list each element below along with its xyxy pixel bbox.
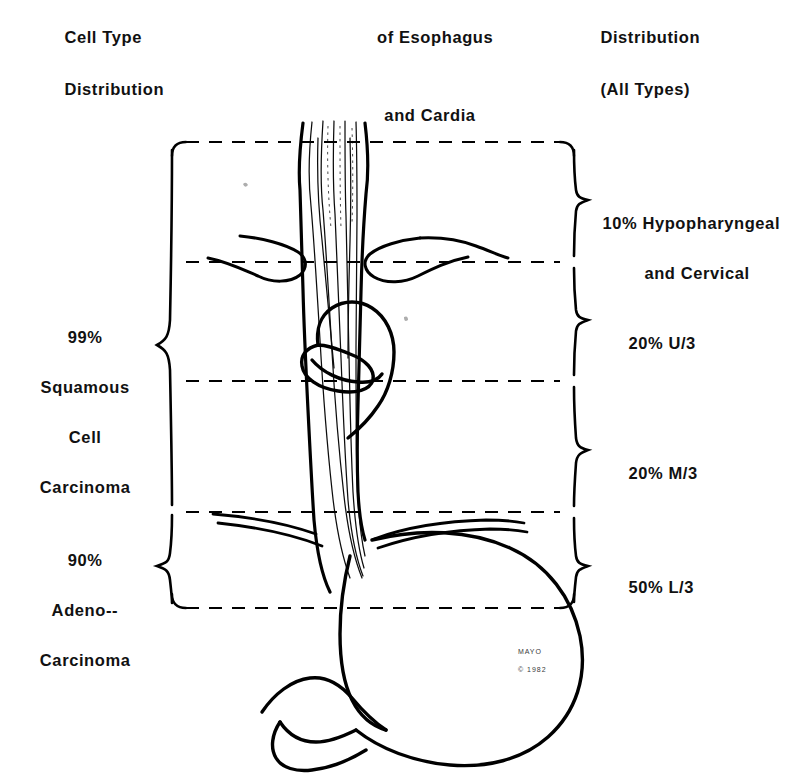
label-lower-third: 50% L/3 (618, 550, 694, 600)
adeno-percent: 90% (68, 551, 103, 569)
header-distribution-all-types: Distribution (All Types) (590, 0, 700, 102)
squamous-name-line3: Carcinoma (40, 478, 131, 496)
right-brace-upper-third (574, 268, 588, 375)
title-line2: and Cardia (330, 102, 530, 128)
diaphragm (213, 514, 527, 548)
stomach-pylorus-lower (280, 722, 356, 742)
right-brace-lower-third (574, 518, 588, 602)
credit-line2: © 1982 (518, 666, 547, 673)
header-left-line2: Distribution (64, 80, 164, 98)
header-right-line1: Distribution (600, 28, 700, 46)
right-braces (574, 150, 588, 602)
squamous-name-line2: Cell (69, 428, 102, 446)
label-upper-third: 20% U/3 (618, 306, 696, 356)
left-brace-adeno (157, 515, 172, 603)
label-hypopharyngeal-cervical: 10% Hypopharyngeal and Cervical (592, 186, 780, 286)
hypopharyngeal-line1: 10% Hypopharyngeal (602, 214, 780, 232)
squamous-name-line1: Squamous (41, 378, 130, 396)
header-right-line2: (All Types) (600, 80, 690, 98)
esophagus-wall-right (357, 123, 368, 540)
adeno-name-line1: Adeno-- (52, 601, 119, 619)
diaphragm-left-lower (218, 523, 322, 546)
label-middle-third: 20% M/3 (618, 436, 698, 486)
left-lateral-structure (208, 236, 305, 281)
middle-third-text: 20% M/3 (628, 464, 697, 482)
stomach-lesser-curvature (340, 556, 386, 730)
label-squamous-cell-carcinoma: 99% Squamous Cell Carcinoma (10, 300, 150, 500)
adeno-name-line2: Carcinoma (40, 651, 131, 669)
hypopharyngeal-line2: and Cervical (602, 261, 749, 286)
right-brace-middle-third (574, 387, 588, 506)
mayo-credit: MAYO © 1982 (512, 638, 547, 674)
credit-line1: MAYO (518, 648, 542, 655)
upper-third-text: 20% U/3 (628, 334, 696, 352)
aortic-arch-proximal-rim (302, 345, 374, 392)
header-cell-type-distribution: Cell Type Distribution (54, 0, 164, 102)
right-lateral-structure (365, 238, 508, 282)
title-line1: of Esophagus (377, 28, 493, 46)
figure-title: of Esophagus and Cardia (330, 0, 530, 154)
squamous-percent: 99% (68, 328, 103, 346)
left-brace-squamous (157, 150, 172, 505)
label-adenocarcinoma: 90% Adeno-- Carcinoma (10, 523, 150, 673)
lower-third-text: 50% L/3 (628, 578, 694, 596)
stomach-greater-curvature (356, 532, 582, 765)
right-brace-hypopharyngeal (574, 150, 588, 256)
header-left-line1: Cell Type (64, 28, 142, 46)
